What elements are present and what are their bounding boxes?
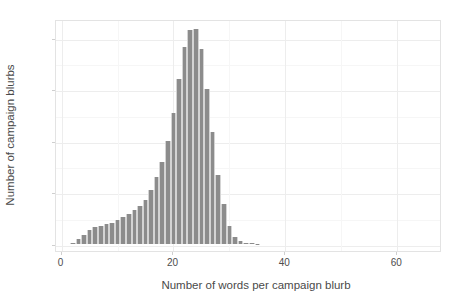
x-tick-mark bbox=[172, 252, 173, 255]
x-axis-title: Number of words per campaign blurb bbox=[70, 279, 442, 291]
x-tick-label: 20 bbox=[152, 258, 192, 268]
x-tick-label: 60 bbox=[376, 258, 416, 268]
x-tick-mark bbox=[284, 252, 285, 255]
histogram-bars bbox=[56, 21, 440, 251]
plot-panel bbox=[55, 20, 441, 252]
histogram-figure: Number of campaign blurbs Number of word… bbox=[0, 0, 458, 302]
x-tick-label: 0 bbox=[41, 258, 81, 268]
x-tick-label: 40 bbox=[264, 258, 304, 268]
x-tick-mark bbox=[396, 252, 397, 255]
x-tick-mark bbox=[61, 252, 62, 255]
y-axis-title: Number of campaign blurbs bbox=[0, 0, 20, 286]
